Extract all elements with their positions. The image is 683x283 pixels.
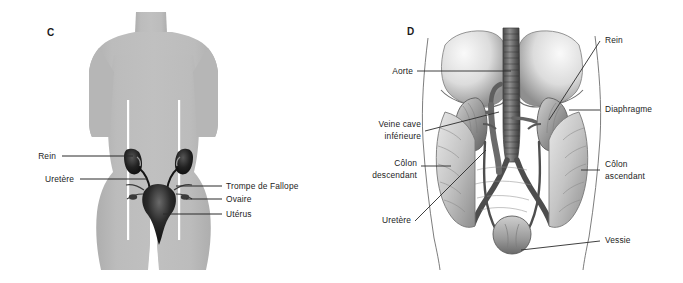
panel-c-illustration bbox=[0, 0, 341, 283]
label-panel-d-veine-cave-inferieure-line1: Veine cave bbox=[341, 119, 421, 131]
label-panel-d-colon-descendant-line1: Côlon bbox=[341, 158, 417, 170]
anatomy-figure: C bbox=[0, 0, 683, 283]
label-panel-c-ovaire: Ovaire bbox=[226, 194, 252, 206]
label-panel-d-uretere: Uretère bbox=[341, 215, 411, 227]
label-panel-d-veine-cave-inferieure-line2: inférieure bbox=[341, 131, 421, 143]
label-panel-c-uterus: Utérus bbox=[226, 209, 252, 221]
label-panel-d-diaphragme: Diaphragme bbox=[605, 104, 652, 116]
label-panel-d-colon-ascendant-line1: Côlon bbox=[605, 159, 628, 171]
label-panel-d-rein: Rein bbox=[605, 35, 623, 47]
label-panel-c-trompe-de-fallope: Trompe de Fallope bbox=[226, 181, 299, 193]
bladder-organ bbox=[493, 216, 531, 254]
label-panel-c-uretere: Uretère bbox=[8, 174, 74, 186]
label-panel-d-colon-descendant-line2: descendant bbox=[341, 170, 417, 182]
label-panel-d-colon-ascendant-line2: ascendant bbox=[605, 171, 645, 183]
panel-d: D bbox=[341, 0, 683, 283]
label-panel-c-rein: Rein bbox=[8, 151, 56, 163]
panel-c: C bbox=[0, 0, 341, 283]
female-body-silhouette bbox=[89, 12, 218, 272]
label-panel-d-vessie: Vessie bbox=[605, 235, 631, 247]
label-panel-d-aorte: Aorte bbox=[349, 66, 413, 78]
